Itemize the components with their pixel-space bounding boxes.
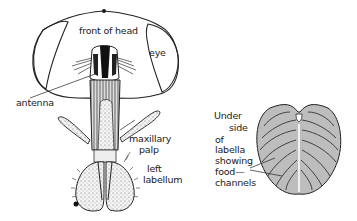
label-labella: labella [215,145,245,155]
label-front-of-head: front of head [79,26,138,36]
label-channels: channels [215,178,256,188]
label-labellum: labellum [143,175,182,185]
label-side: side [229,123,248,133]
fly-mouthparts-illustration [0,0,357,221]
label-food: food— [215,167,245,177]
right-eye [147,24,179,92]
left-eye [33,21,68,89]
proboscis [90,80,120,162]
labella-underside [257,105,341,195]
label-maxillary: maxillary [129,134,171,144]
label-showing: showing [215,156,253,166]
label-eye: eye [149,48,166,58]
label-antenna: antenna [16,98,54,108]
label-palp: palp [139,145,159,155]
face-center [90,46,119,82]
label-under: Under [214,111,242,121]
label-left: left [147,164,162,174]
